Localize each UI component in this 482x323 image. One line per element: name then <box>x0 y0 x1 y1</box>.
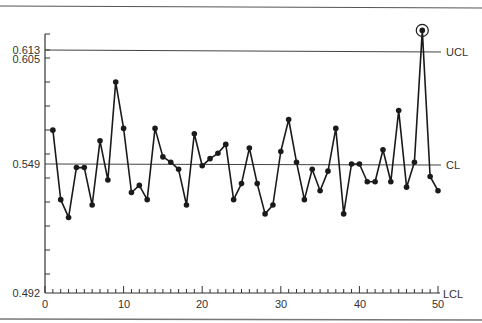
data-point <box>239 181 245 187</box>
data-point <box>113 79 119 85</box>
control-chart: 0.613 0.605 0.549 0.492 0 10 20 30 40 50… <box>0 0 482 323</box>
data-point <box>176 167 182 173</box>
data-point <box>89 202 95 208</box>
data-point <box>74 165 80 171</box>
x-label-40: 40 <box>354 298 366 310</box>
data-point <box>66 215 72 221</box>
data-point <box>105 177 111 183</box>
data-point <box>152 126 158 132</box>
y-label-0605: 0.605 <box>12 53 40 65</box>
data-series-line <box>53 30 438 217</box>
data-point <box>168 159 174 165</box>
data-point <box>184 202 190 208</box>
data-point <box>137 183 143 189</box>
cl-label: CL <box>446 159 460 171</box>
ucl-label: UCL <box>446 46 468 58</box>
data-point <box>144 197 150 203</box>
data-point <box>247 145 253 151</box>
data-point <box>325 168 331 174</box>
y-axis <box>45 34 50 293</box>
x-label-10: 10 <box>118 298 130 310</box>
top-rule <box>0 6 482 8</box>
data-point <box>278 149 284 155</box>
data-point <box>50 127 56 133</box>
x-label-0: 0 <box>42 298 48 310</box>
data-point <box>317 188 323 194</box>
data-point <box>270 202 276 208</box>
data-point <box>215 151 221 157</box>
bottom-rule <box>0 319 482 320</box>
data-point <box>199 163 205 169</box>
x-label-20: 20 <box>196 298 208 310</box>
data-point <box>294 159 300 165</box>
data-point <box>58 197 64 203</box>
data-point <box>192 131 198 137</box>
data-point <box>262 211 268 217</box>
x-label-30: 30 <box>275 298 287 310</box>
data-point <box>380 147 386 153</box>
x-axis <box>45 286 440 293</box>
y-label-0549: 0.549 <box>12 158 40 170</box>
data-point <box>97 138 103 144</box>
data-point <box>254 181 260 187</box>
ucl-line <box>45 50 441 52</box>
lcl-label: LCL <box>443 288 463 300</box>
data-point <box>333 126 339 132</box>
data-point <box>419 28 425 34</box>
y-label-0492: 0.492 <box>12 287 40 299</box>
data-point <box>435 188 441 194</box>
data-point <box>160 154 166 160</box>
data-point <box>82 165 88 171</box>
data-points <box>50 28 441 221</box>
data-point <box>404 184 410 190</box>
data-point <box>121 126 127 132</box>
data-point <box>207 156 213 162</box>
data-point <box>427 174 433 180</box>
data-point <box>341 211 347 217</box>
data-point <box>129 190 135 196</box>
data-point <box>372 179 378 185</box>
data-point <box>396 108 402 114</box>
data-point <box>357 161 363 167</box>
data-point <box>309 167 315 173</box>
data-point <box>223 142 229 148</box>
data-point <box>286 117 292 123</box>
data-point <box>364 179 370 185</box>
data-point <box>412 159 418 165</box>
data-point <box>231 197 237 203</box>
data-point <box>302 197 308 203</box>
data-point <box>349 161 355 167</box>
data-point <box>388 179 394 185</box>
